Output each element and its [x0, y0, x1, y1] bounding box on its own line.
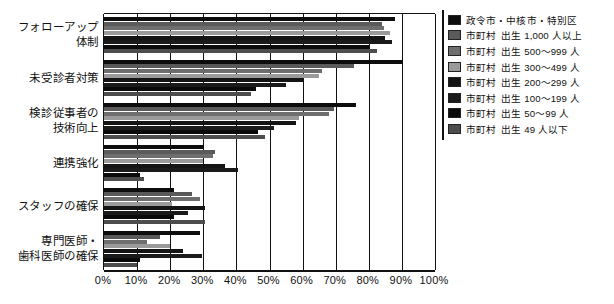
- bar: [104, 220, 205, 224]
- legend-label-group: 市町村: [466, 77, 496, 88]
- bar: [104, 206, 205, 210]
- bar: [104, 130, 258, 134]
- category-label: スタッフの確保: [0, 199, 99, 214]
- bar: [104, 126, 274, 130]
- plot-area: [103, 14, 436, 270]
- bar-group: [104, 57, 435, 100]
- bar-group: [104, 142, 435, 185]
- bar: [104, 83, 286, 87]
- category-label-line: 歯科医師の確保: [0, 249, 99, 264]
- bar-row: [104, 130, 435, 134]
- bar: [104, 116, 299, 120]
- bar-row: [104, 177, 435, 181]
- legend-label: 市町村出生 1,000 人以上: [466, 28, 582, 42]
- bar-group: [104, 227, 435, 270]
- legend-label-detail: 出生 50〜99 人: [501, 108, 569, 119]
- bar: [104, 231, 200, 235]
- bar: [104, 154, 213, 158]
- bar-chart: フォローアップ体制未受診者対策検診従事者の技術向上連携強化スタッフの確保専門医師…: [0, 0, 614, 304]
- bar-row: [104, 26, 435, 30]
- bar-row: [104, 206, 435, 210]
- legend-item: 政令市・中核市・特別区: [448, 12, 608, 28]
- bar: [104, 150, 215, 154]
- legend-label-detail: 出生 49 人以下: [501, 124, 568, 135]
- bar-row: [104, 150, 435, 154]
- bar-row: [104, 40, 435, 44]
- bar-row: [104, 121, 435, 125]
- bar: [104, 235, 160, 239]
- bar: [104, 240, 147, 244]
- legend-label-detail: 出生 200〜299 人: [501, 77, 580, 88]
- bar-row: [104, 69, 435, 73]
- category-label: 専門医師・歯科医師の確保: [0, 234, 99, 264]
- legend-label-detail: 出生 300〜499 人: [501, 62, 580, 73]
- legend-label-group: 市町村: [466, 62, 496, 73]
- bar-row: [104, 49, 435, 53]
- bar-row: [104, 17, 435, 21]
- bar-group: [104, 185, 435, 228]
- bar: [104, 197, 200, 201]
- bar: [104, 173, 140, 177]
- bar-row: [104, 202, 435, 206]
- legend-label-group: 市町村: [466, 93, 496, 104]
- bar-row: [104, 263, 435, 267]
- bar: [104, 164, 225, 168]
- legend-swatch: [448, 62, 461, 72]
- axis-bottom-line: [104, 270, 435, 272]
- category-label-line: 技術向上: [0, 121, 99, 136]
- category-label-line: 連携強化: [0, 156, 99, 171]
- bar-row: [104, 154, 435, 158]
- bar-row: [104, 87, 435, 91]
- category-label: フォローアップ体制: [0, 20, 99, 50]
- legend-label: 市町村出生 100〜199 人: [466, 91, 580, 105]
- legend-label: 市町村出生 300〜499 人: [466, 60, 580, 74]
- bar: [104, 258, 140, 262]
- bar: [104, 263, 137, 267]
- bar-row: [104, 168, 435, 172]
- bar: [104, 74, 319, 78]
- bar: [104, 211, 188, 215]
- legend-label: 市町村出生 49 人以下: [466, 122, 568, 136]
- bar-row: [104, 244, 435, 248]
- bar-row: [104, 74, 435, 78]
- legend-item: 市町村出生 1,000 人以上: [448, 28, 608, 44]
- bar-row: [104, 78, 435, 82]
- category-label-line: 体制: [0, 35, 99, 50]
- bar-row: [104, 36, 435, 40]
- x-tick-label: 100%: [414, 274, 454, 286]
- bar: [104, 17, 395, 21]
- bar: [104, 168, 238, 172]
- bar: [104, 135, 265, 139]
- legend-swatch: [448, 93, 461, 103]
- bar: [104, 60, 402, 64]
- bar: [104, 45, 369, 49]
- legend-item: 市町村出生 300〜499 人: [448, 59, 608, 75]
- bar: [104, 202, 172, 206]
- bar: [104, 121, 296, 125]
- bar-row: [104, 211, 435, 215]
- bar-row: [104, 258, 435, 262]
- category-label-line: フォローアップ: [0, 20, 99, 35]
- bar: [104, 31, 390, 35]
- bar: [104, 254, 202, 258]
- bar: [104, 177, 144, 181]
- bar-row: [104, 135, 435, 139]
- bar-row: [104, 164, 435, 168]
- legend-label-detail: 出生 100〜199 人: [501, 93, 580, 104]
- bar: [104, 215, 174, 219]
- legend-label: 政令市・中核市・特別区: [466, 13, 577, 27]
- legend-label-group: 市町村: [466, 46, 496, 57]
- bar-row: [104, 254, 435, 258]
- legend-label-detail: 出生 500〜999 人: [501, 46, 580, 57]
- bar-row: [104, 112, 435, 116]
- bar: [104, 92, 251, 96]
- bar: [104, 249, 183, 253]
- bar-row: [104, 145, 435, 149]
- bar-row: [104, 231, 435, 235]
- bar-row: [104, 249, 435, 253]
- legend-item: 市町村出生 49 人以下: [448, 121, 608, 137]
- bar: [104, 107, 334, 111]
- category-label-line: 検診従事者の: [0, 106, 99, 121]
- legend-label-group: 市町村: [466, 30, 496, 41]
- bar-row: [104, 192, 435, 196]
